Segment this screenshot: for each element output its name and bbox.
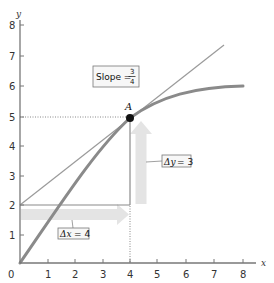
svg-text:Δy: Δy — [163, 157, 176, 167]
svg-text:8: 8 — [9, 20, 15, 31]
svg-text:3: 3 — [9, 171, 15, 182]
svg-text:= 4: = 4 — [74, 229, 90, 239]
delta-x-annotation: Δx = 4 — [58, 220, 90, 239]
svg-text:0: 0 — [8, 269, 14, 280]
slope-annotation: Slope = 3 4 — [93, 66, 139, 87]
svg-text:2: 2 — [9, 200, 15, 211]
point-a — [126, 114, 134, 122]
svg-text:= 3: = 3 — [177, 157, 193, 167]
svg-text:1: 1 — [45, 269, 51, 280]
svg-text:4: 4 — [127, 269, 133, 280]
svg-text:8: 8 — [240, 269, 246, 280]
svg-text:Δx: Δx — [59, 229, 72, 239]
svg-text:5: 5 — [9, 112, 15, 123]
svg-text:Slope =: Slope = — [96, 72, 131, 82]
svg-text:5: 5 — [154, 269, 160, 280]
svg-text:2: 2 — [72, 269, 78, 280]
y-axis-label: y — [15, 9, 22, 19]
svg-text:6: 6 — [183, 269, 189, 280]
delta-y-annotation: Δy = 3 — [146, 155, 193, 167]
svg-text:4: 4 — [130, 78, 135, 86]
svg-text:7: 7 — [211, 269, 217, 280]
x-axis-label: x — [261, 258, 266, 268]
svg-text:6: 6 — [9, 81, 15, 92]
chart: 8 7 6 5 4 3 2 1 0 1 2 3 4 5 6 7 8 y x A … — [0, 0, 274, 283]
svg-text:7: 7 — [9, 51, 15, 62]
curve — [20, 86, 243, 263]
delta-x-arrow — [21, 204, 129, 225]
y-tick-labels: 8 7 6 5 4 3 2 1 — [9, 20, 15, 241]
svg-text:4: 4 — [9, 141, 15, 152]
svg-text:3: 3 — [100, 269, 106, 280]
point-a-label: A — [124, 101, 132, 112]
x-tick-labels: 0 1 2 3 4 5 6 7 8 — [8, 269, 246, 280]
delta-y-arrow — [130, 121, 152, 204]
svg-text:1: 1 — [9, 230, 15, 241]
svg-text:3: 3 — [130, 68, 134, 76]
